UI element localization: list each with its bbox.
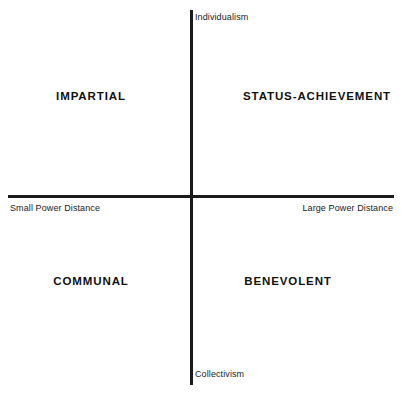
quadrant-label-impartial: IMPARTIAL	[56, 89, 126, 103]
axis-label-collectivism: Collectivism	[195, 369, 244, 380]
quadrant-label-status-achievement: STATUS-ACHIEVEMENT	[243, 89, 391, 103]
quadrant-diagram: Individualism Collectivism Small Power D…	[0, 0, 402, 394]
horizontal-axis-line	[8, 195, 394, 198]
quadrant-label-communal: COMMUNAL	[53, 274, 129, 288]
quadrant-label-benevolent: BENEVOLENT	[244, 274, 332, 288]
axis-label-small-power-distance: Small Power Distance	[10, 203, 100, 214]
axis-label-large-power-distance: Large Power Distance	[302, 203, 393, 214]
axis-label-individualism: Individualism	[195, 12, 248, 23]
